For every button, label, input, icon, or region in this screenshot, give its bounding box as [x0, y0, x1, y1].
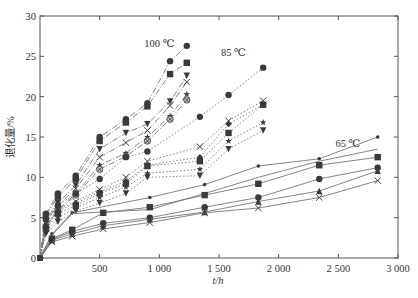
y-tick-label: 15: [26, 132, 37, 143]
y-tick-label: 25: [26, 51, 37, 62]
y-axis-label: 退化量/%: [4, 116, 16, 158]
temperature-label: 100 ℃: [144, 38, 174, 49]
y-tick-label: 0: [31, 253, 36, 264]
degradation-chart: 5001 0001 5002 0002 5003 000051015202530…: [0, 0, 418, 298]
temperature-label: 85 ℃: [221, 47, 246, 58]
y-tick-label: 20: [26, 92, 37, 103]
data-series: [38, 177, 381, 260]
data-series: [38, 79, 190, 261]
data-series: [38, 154, 381, 261]
x-tick-label: 500: [92, 263, 108, 274]
data-series: [38, 127, 267, 260]
y-tick-label: 5: [31, 213, 36, 224]
x-tick-label: 2 500: [327, 263, 351, 274]
x-tick-label: 1 000: [148, 263, 172, 274]
temperature-label: 65 ℃: [335, 138, 360, 149]
x-axis-label: t/h: [212, 275, 223, 286]
plot-frame: [40, 16, 398, 258]
annotations: 100 ℃85 ℃65 ℃: [144, 38, 360, 150]
x-tick-label: 2 000: [267, 263, 291, 274]
y-tick-label: 30: [26, 11, 37, 22]
y-tick-label: 10: [26, 172, 37, 183]
data-series: [38, 60, 190, 261]
x-tick-label: 3 000: [386, 263, 410, 274]
x-tick-label: 1 500: [207, 263, 231, 274]
data-series: [38, 72, 190, 260]
data-series: [38, 168, 381, 261]
series-layer: [38, 43, 381, 261]
